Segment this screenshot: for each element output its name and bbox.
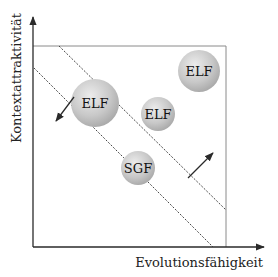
bubble-elf: ELF <box>71 79 119 127</box>
bubble-label: ELF <box>185 64 212 79</box>
portfolio-diagram: ELFELFELFSGF Evolutionsfähigkeit Kontext… <box>0 0 278 277</box>
bubble-sgf: SGF <box>121 151 155 185</box>
bubble-label: ELF <box>144 107 171 122</box>
arrow-down-left <box>56 97 74 121</box>
x-axis-label: Evolutionsfähigkeit <box>135 255 264 270</box>
bubble-elf: ELF <box>141 97 175 131</box>
bubble-label: ELF <box>81 96 108 111</box>
bubble-elf: ELF <box>178 50 220 92</box>
dashed-boundary-lower <box>34 68 213 247</box>
y-axis-label: Kontextattraktivität <box>9 12 24 143</box>
arrow-up-right <box>188 153 213 178</box>
bubble-label: SGF <box>124 161 152 176</box>
